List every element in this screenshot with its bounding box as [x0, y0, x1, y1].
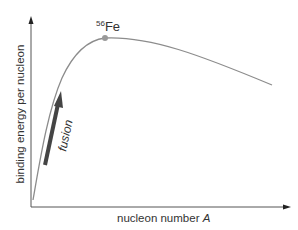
x-axis-label-symbol: A: [202, 212, 211, 224]
x-axis-label: nucleon number A: [117, 212, 211, 224]
x-axis-label-text: nucleon number: [117, 212, 203, 224]
fusion-label: fusion: [55, 118, 75, 153]
y-axis-label: binding energy per nucleon: [14, 45, 26, 184]
binding-energy-diagram: 56Fe fusion binding energy per nucleon n…: [0, 0, 298, 230]
fusion-arrowhead-icon: [54, 91, 63, 108]
binding-energy-curve: [33, 38, 272, 200]
iron-56-symbol: Fe: [105, 19, 120, 34]
x-axis-arrowhead-icon: [283, 205, 291, 210]
iron-56-label: 56Fe: [96, 19, 120, 34]
x-axis: [31, 205, 291, 210]
iron-56-peak-marker: [102, 35, 108, 41]
y-axis-arrowhead-icon: [29, 16, 34, 24]
y-axis: [29, 16, 34, 207]
